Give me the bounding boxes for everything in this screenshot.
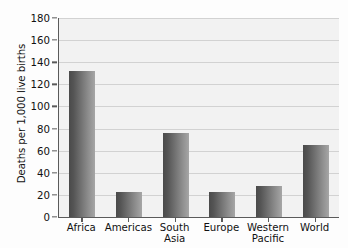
gridline <box>59 173 339 174</box>
gridline <box>59 62 339 63</box>
x-tick-label-line: Africa <box>58 222 105 233</box>
x-tick-label-line: South <box>151 222 198 233</box>
y-tick-mark <box>52 62 57 63</box>
y-tick-label: 140 <box>6 57 50 68</box>
y-tick-label: 20 <box>6 189 50 200</box>
x-tick-label-line: Western <box>245 222 292 233</box>
y-tick-mark <box>52 106 57 107</box>
bar <box>256 186 282 217</box>
y-tick-label: 0 <box>6 212 50 223</box>
gridline <box>59 18 339 19</box>
x-tick-label-line: Americas <box>105 222 152 233</box>
y-tick-mark <box>52 216 57 217</box>
bar <box>209 192 235 217</box>
bar-chart: Deaths per 1,000 live births 02040608010… <box>0 0 348 248</box>
y-tick-label: 60 <box>6 145 50 156</box>
x-tick-label: WesternPacific <box>245 222 292 245</box>
y-tick-mark <box>52 150 57 151</box>
gridline <box>59 106 339 107</box>
x-tick-label-line: Europe <box>198 222 245 233</box>
y-tick-mark <box>52 84 57 85</box>
y-tick-mark <box>52 194 57 195</box>
bar <box>116 192 142 217</box>
x-tick-label: Africa <box>58 222 105 233</box>
x-tick-label: SouthAsia <box>151 222 198 245</box>
gridline <box>59 40 339 41</box>
x-tick-label-line: Asia <box>151 233 198 244</box>
x-tick-label: Americas <box>105 222 152 233</box>
y-tick-label: 180 <box>6 13 50 24</box>
gridline <box>59 84 339 85</box>
bar <box>303 145 329 217</box>
plot-area <box>58 18 339 218</box>
y-tick-label: 160 <box>6 35 50 46</box>
bar <box>163 133 189 217</box>
y-tick-mark <box>52 172 57 173</box>
x-tick-label: World <box>291 222 338 233</box>
y-tick-mark <box>52 17 57 18</box>
y-tick-mark <box>52 39 57 40</box>
y-tick-label: 40 <box>6 167 50 178</box>
x-tick-label-line: Pacific <box>245 233 292 244</box>
y-tick-label: 80 <box>6 123 50 134</box>
y-axis-title: Deaths per 1,000 live births <box>16 21 27 207</box>
gridline <box>59 151 339 152</box>
bar <box>69 71 95 217</box>
gridline <box>59 129 339 130</box>
x-tick-label-line: World <box>291 222 338 233</box>
y-tick-label: 100 <box>6 101 50 112</box>
gridline <box>59 195 339 196</box>
x-tick-label: Europe <box>198 222 245 233</box>
y-tick-mark <box>52 128 57 129</box>
y-tick-label: 120 <box>6 79 50 90</box>
